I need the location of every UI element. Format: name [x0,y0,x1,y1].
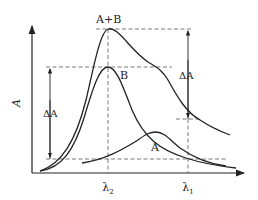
x-tick-lambda2: λ2 [102,181,113,196]
axes [32,26,244,173]
x-tick-lambda1: λ1 [182,181,193,196]
guide-lines [46,29,228,173]
delta-arrows [50,31,188,159]
labels: A+B B A A ΔA ΔA λ2 λ1 [10,13,194,196]
right-delta-label: ΔA [179,70,194,81]
curve-a-plus-b [40,29,230,171]
y-axis-label: A [10,99,23,108]
absorption-diagram: A+B B A A ΔA ΔA λ2 λ1 [0,0,258,200]
curves [40,29,236,171]
left-delta-label: ΔA [43,108,58,119]
curve-b [40,67,236,171]
curve-label-a: A [150,141,160,154]
curve-label-b: B [120,69,128,82]
curve-label-a-plus-b: A+B [95,13,121,26]
